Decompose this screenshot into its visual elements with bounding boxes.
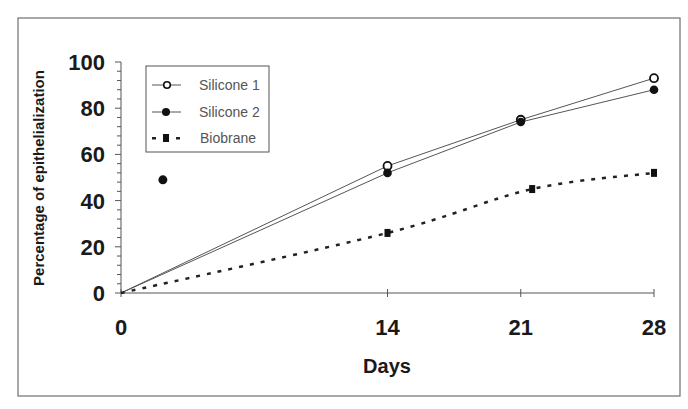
dash-icon (176, 137, 180, 140)
y-tick-label: 0 (93, 281, 105, 306)
filled-circle-marker (383, 169, 392, 178)
y-axis-title: Percentage of epithelialization (30, 70, 47, 286)
filled-square-icon (163, 134, 169, 142)
open-circle-marker (650, 74, 658, 82)
chart: 020406080100 0142128 Percentage of epith… (0, 0, 688, 409)
y-tick-label: 100 (68, 50, 105, 75)
x-axis-title: Days (363, 355, 411, 377)
open-circle-icon (164, 82, 171, 89)
y-tick-label: 80 (81, 96, 105, 121)
filled-circle-marker (516, 118, 525, 127)
filled-square-marker (529, 185, 535, 193)
y-tick-label: 60 (81, 142, 105, 167)
dash-icon (152, 137, 156, 140)
y-tick-label: 20 (81, 235, 105, 260)
x-tick-label: 21 (509, 315, 533, 340)
x-tick-label: 0 (115, 315, 127, 340)
filled-square-marker (385, 229, 391, 237)
filled-circle-marker (650, 85, 659, 94)
legend-label: Silicone 1 (199, 77, 260, 93)
x-tick-label: 14 (375, 315, 400, 340)
filled-square-marker (651, 169, 657, 177)
legend: Silicone 1 Silicone 2 Biobrane (146, 66, 269, 152)
isolated-filled-circle-marker (158, 175, 167, 184)
legend-label: Silicone 2 (199, 104, 260, 120)
legend-label: Biobrane (200, 130, 256, 146)
x-tick-label: 28 (642, 315, 666, 340)
y-tick-label: 40 (81, 189, 105, 214)
filled-circle-icon (162, 108, 170, 116)
